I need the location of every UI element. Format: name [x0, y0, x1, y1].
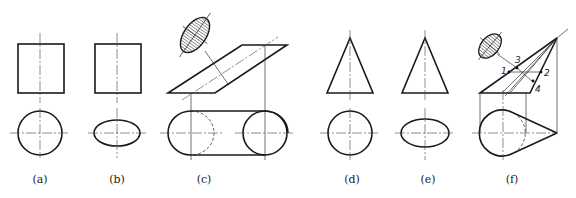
- right-arc: [265, 111, 288, 133]
- panel-c: (c): [160, 4, 295, 186]
- section-ellipse: [468, 24, 511, 68]
- panel-label-d: (d): [344, 173, 360, 186]
- tangent-bottom: [509, 133, 557, 155]
- point-label-2: 2: [544, 68, 550, 78]
- front-view-rectangle: [18, 44, 64, 93]
- point-label-4: 4: [535, 84, 541, 94]
- panel-a: (a): [10, 33, 70, 186]
- section-ellipse: [167, 4, 223, 65]
- panel-b: (b): [88, 33, 148, 186]
- point-4-marker: [532, 80, 535, 83]
- axis-extension: [557, 29, 568, 38]
- panel-label-a: (a): [32, 173, 47, 186]
- projection-line: [497, 54, 517, 68]
- panel-label-c: (c): [197, 173, 212, 186]
- point-2-marker: [540, 71, 543, 74]
- point-1-marker: [508, 71, 511, 74]
- panel-d: (d): [320, 30, 380, 186]
- point-3-marker: [516, 67, 519, 70]
- front-view-rectangle: [95, 44, 141, 93]
- diagram-canvas: (a) (b) (c): [0, 0, 576, 198]
- panel-f: 1 2 3 4 (f): [468, 24, 568, 186]
- panel-label-b: (b): [109, 173, 125, 186]
- panel-e: (e): [395, 30, 455, 186]
- point-label-3: 3: [515, 55, 521, 65]
- generator-line: [502, 38, 557, 93]
- panel-label-e: (e): [420, 173, 435, 186]
- point-label-1: 1: [501, 66, 507, 76]
- tangent-top: [509, 111, 557, 133]
- panel-label-f: (f): [506, 173, 519, 186]
